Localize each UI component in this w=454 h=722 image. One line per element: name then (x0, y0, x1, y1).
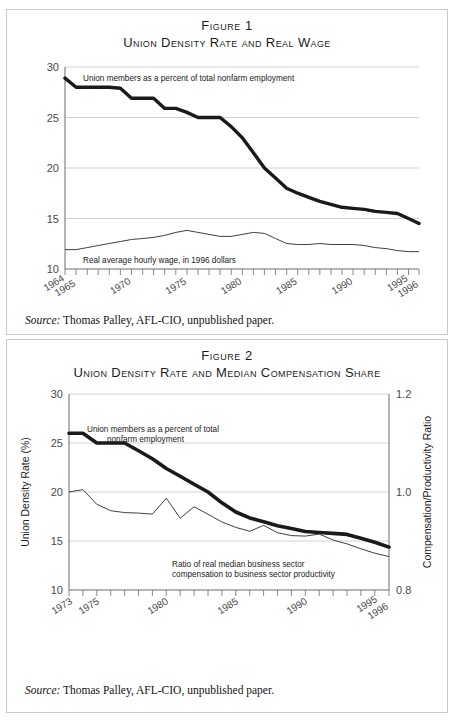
figure-2-ytick-2: 20 (51, 486, 63, 498)
figure-2-ytick-3: 15 (51, 535, 63, 547)
figure-1-svg: 30 25 20 15 10 1964 1965 1970 1975 1980 … (7, 52, 447, 297)
figure-2-y-tick-labels: 30 25 20 15 10 (51, 388, 63, 596)
figure-2-source-prefix: Source: (25, 684, 60, 696)
figure-2-gridlines (69, 394, 389, 541)
figure-1-union-density-line (65, 78, 419, 223)
figure-2-xtick-1980: 1980 (145, 595, 170, 616)
figure-1-ytick-1: 25 (47, 112, 59, 124)
figure-2-annotation-ratio-line2: compensation to business sector producti… (172, 570, 336, 579)
figure-2-subtitle: Union Density Rate and Median Compensati… (7, 365, 447, 382)
figure-2-y2tick-0: 1.2 (396, 388, 411, 400)
figure-2-y2-axis-title: Compensation/Productivity Ratio (421, 416, 433, 568)
figure-2-xtick-1975: 1975 (76, 595, 101, 616)
figure-1-x-ticks (65, 269, 419, 275)
figure-1-number: Figure 1 (7, 18, 447, 34)
figure-2-plot: 30 25 20 15 10 1.2 1.0 0.8 Union Density… (7, 382, 447, 662)
figure-1-plot: 30 25 20 15 10 1964 1965 1970 1975 1980 … (7, 52, 447, 297)
figure-1-real-wage-line (65, 231, 419, 252)
figure-2-y2-tick-labels: 1.2 1.0 0.8 (396, 388, 411, 596)
figure-2-xtick-1985: 1985 (215, 595, 240, 616)
figure-1-ytick-2: 20 (47, 162, 59, 174)
figure-2-title-block: Figure 2 Union Density Rate and Median C… (7, 340, 447, 382)
figure-2-x-ticks (69, 590, 389, 596)
figure-1-source-text: Thomas Palley, AFL-CIO, unpublished pape… (60, 314, 274, 326)
figure-2-y-axis-title: Union Density Rate (%) (19, 437, 31, 547)
figure-2-panel: Figure 2 Union Density Rate and Median C… (6, 339, 448, 713)
figure-2-y2tick-2: 0.8 (396, 584, 411, 596)
figure-2-xtick-1990: 1990 (284, 595, 309, 616)
figure-1-y-tick-labels: 30 25 20 15 10 (47, 61, 59, 275)
figure-1-ytick-3: 15 (47, 213, 59, 225)
figure-2-annotation-ratio-line1: Ratio of real median business sector (172, 560, 305, 569)
figure-1-gridlines (65, 67, 419, 219)
figure-2-annotation-union-line2: nonfarm employment (107, 435, 185, 444)
figure-1-annotation-union: Union members as a percent of total nonf… (83, 74, 295, 83)
document-page: Figure 1 Union Density Rate and Real Wag… (0, 0, 454, 722)
figure-2-annotation-union-line1: Union members as a percent of total (87, 425, 219, 434)
figure-2-ytick-4: 10 (51, 584, 63, 596)
figure-1-annotation-wage: Real average hourly wage, in 1996 dollar… (83, 256, 236, 265)
figure-2-ytick-0: 30 (51, 388, 63, 400)
figure-1-source-prefix: Source: (25, 314, 60, 326)
figure-1-xtick-1985: 1985 (274, 275, 299, 296)
figure-2-x-tick-labels: 1973 1975 1980 1985 1990 1995 1996 (49, 593, 390, 621)
figure-1-subtitle: Union Density Rate and Real Wage (7, 35, 447, 52)
figure-2-union-density-line (69, 433, 389, 547)
figure-2-number: Figure 2 (7, 348, 447, 364)
figure-1-xtick-1975: 1975 (163, 275, 188, 296)
figure-1-xtick-1980: 1980 (219, 275, 244, 296)
figure-2-xtick-1973: 1973 (49, 595, 74, 616)
figure-2-source-text: Thomas Palley, AFL-CIO, unpublished pape… (60, 684, 274, 696)
figure-1-ytick-0: 30 (47, 61, 59, 73)
figure-1-x-tick-labels: 1964 1965 1970 1975 1980 1985 1990 1995 … (41, 272, 420, 297)
figure-2-y2tick-1: 1.0 (396, 486, 411, 498)
figure-1-panel: Figure 1 Union Density Rate and Real Wag… (6, 9, 448, 335)
figure-2-source: Source: Thomas Palley, AFL-CIO, unpublis… (7, 684, 274, 696)
figure-1-source: Source: Thomas Palley, AFL-CIO, unpublis… (7, 314, 274, 326)
figure-2-svg: 30 25 20 15 10 1.2 1.0 0.8 Union Density… (7, 382, 447, 662)
figure-2-ratio-line (69, 490, 389, 557)
figure-2-ytick-1: 25 (51, 437, 63, 449)
figure-1-title-block: Figure 1 Union Density Rate and Real Wag… (7, 10, 447, 52)
figure-1-xtick-1990: 1990 (329, 275, 354, 296)
figure-1-xtick-1970: 1970 (108, 275, 133, 296)
